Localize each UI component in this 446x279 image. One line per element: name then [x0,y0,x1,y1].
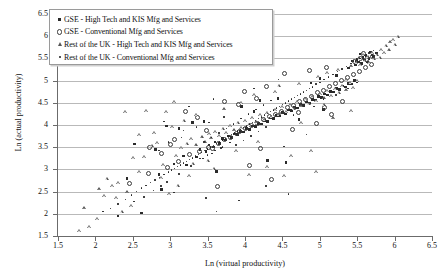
x-tick-label: 5.5 [342,241,372,250]
data-point [315,83,317,85]
data-point [172,137,177,142]
legend-item: GSE - High Tech and KIS Mfg and Services [55,13,267,26]
data-point [333,87,337,90]
data-point [252,93,256,96]
y-tick-label: 6.5 [14,9,48,18]
data-point [393,43,397,46]
data-point [363,65,368,70]
data-point [262,118,266,121]
data-point [213,130,217,133]
data-point [387,48,391,51]
data-point [166,181,168,183]
data-point [314,99,318,102]
data-point [335,74,338,77]
data-point [205,150,208,153]
data-point [250,135,252,137]
data-point [273,90,277,93]
data-point [117,215,120,218]
gridline [58,81,432,82]
data-point [172,100,176,103]
data-point [170,125,174,128]
data-point [133,201,135,203]
data-point [232,128,236,131]
data-point [367,61,371,64]
data-point [309,88,311,90]
data-point [102,211,104,213]
data-point [154,148,157,151]
data-point [264,84,269,89]
data-point [140,212,143,215]
data-point [359,58,361,60]
data-point [294,97,296,99]
legend-item: Rest of the UK - High Tech and KIS Mfg a… [55,38,267,51]
gridline [58,147,432,148]
data-point [248,113,250,115]
data-point [214,150,216,152]
data-point [168,171,170,173]
data-point [203,141,205,143]
data-point [282,71,287,76]
data-point [189,137,193,140]
data-point [137,133,141,136]
data-point [288,100,290,102]
data-point [303,91,305,93]
gridline [58,192,432,193]
data-point [161,163,165,166]
y-tick-label: 4 [14,120,48,129]
data-point [77,229,81,232]
data-point [200,135,204,138]
data-point [163,121,165,123]
data-point [102,194,106,197]
data-point [323,98,325,100]
data-point [366,55,370,58]
data-point [259,99,262,102]
data-point [218,132,220,134]
data-point [246,125,248,127]
data-point [183,109,188,114]
data-point [266,120,269,123]
data-point [279,106,281,108]
data-point [105,177,109,180]
data-point [163,174,165,176]
x-tick-label: 4 [230,241,260,250]
data-point [357,69,362,74]
data-point [217,134,221,137]
data-point [325,71,329,74]
y-tick-label: 5 [14,76,48,85]
data-point [331,116,335,119]
data-point [226,128,228,130]
data-point [310,95,314,98]
data-point [126,177,129,180]
data-point [192,157,194,159]
data-point [207,132,211,135]
data-point [180,164,182,166]
data-point [176,184,180,187]
data-point [211,137,213,139]
data-point [337,91,341,94]
chart-legend: GSE - High Tech and KIS Mfg and Services… [49,9,273,65]
gridline [58,214,432,215]
data-point [191,121,194,124]
data-point [129,204,133,207]
data-point [220,147,222,149]
data-point [234,149,238,152]
data-point [314,170,318,173]
data-point [228,124,232,127]
x-tick-label: 2.5 [118,241,148,250]
data-point [229,142,231,144]
data-point [174,154,178,157]
data-point [188,106,190,108]
data-point [236,121,240,124]
data-point [110,184,114,187]
y-tick-label: 3 [14,164,48,173]
data-point [131,156,135,159]
x-tick-label: 1.5 [43,241,73,250]
gridline [58,103,432,104]
x-tick-label: 6.5 [417,241,446,250]
data-point [82,206,86,209]
data-point [247,173,251,176]
y-tick-label: 1.5 [14,231,48,240]
data-point [299,104,303,107]
small-dot-icon [55,56,64,58]
legend-item: Rest of the UK - Conventional Mfg and Se… [55,51,267,64]
